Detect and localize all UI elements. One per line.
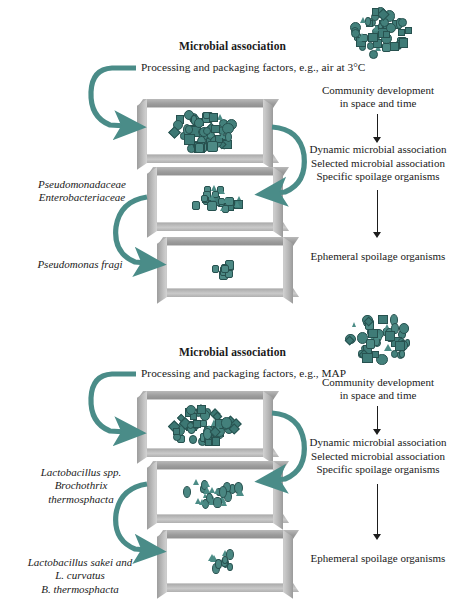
box-bottom-face: [137, 448, 279, 457]
box-right-face: [273, 461, 283, 530]
microorganism-ci: [398, 18, 407, 27]
microorganism-sq: [390, 42, 399, 51]
microorganism-ci: [185, 125, 194, 134]
box-inner-surface: [156, 175, 274, 223]
microorganism-ci: [399, 323, 410, 334]
box-right-face: [263, 99, 273, 170]
initial-association-box: [137, 99, 273, 163]
microorganism-rsq: [200, 420, 207, 427]
flow-arrow-stem: [377, 190, 378, 234]
box-bottom-face: [157, 583, 299, 592]
flow-arrow-head-icon: [373, 534, 381, 540]
taxa-label-group-1: Pseudomonadaceae Enterobacteriaceae: [22, 178, 142, 205]
taxa-line: Pseudomonadaceae: [22, 178, 142, 191]
microorganism-rsq: [366, 339, 375, 349]
initial-association-box: [137, 391, 273, 457]
microorganism-tr: [209, 487, 215, 493]
stage-specific-spoilage: Specific spoilage organisms: [298, 463, 458, 477]
box-right-face: [263, 391, 273, 464]
taxa-label-group-1: Lactobacillus spp. Brochothrix thermosph…: [18, 466, 144, 506]
box-bottom-face: [157, 288, 299, 297]
microorganism-rsq: [212, 265, 219, 273]
community-development-line1: Community development: [303, 84, 453, 98]
taxa-line: Lactobacillus spp.: [18, 466, 144, 479]
microorganism-tr: [193, 479, 199, 485]
box-right-face: [283, 530, 293, 599]
microorganism-ci: [194, 118, 204, 128]
microorganism-tr: [384, 344, 392, 351]
panel-aerobic: Microbial association Processing and pac…: [0, 0, 475, 306]
panel-map: Microbial association Processing and pac…: [0, 306, 475, 612]
microorganism-sq: [211, 125, 220, 134]
microorganism-rsq: [192, 201, 200, 210]
microorganism-tr: [220, 207, 224, 211]
flow-arrow-stem: [377, 406, 378, 431]
microorganism-ci: [221, 417, 232, 428]
microorganism-sq: [193, 420, 201, 428]
microorganism-tr: [373, 25, 379, 31]
microorganism-ci: [189, 435, 197, 443]
flow-arrow-head-icon: [373, 429, 381, 435]
microorganism-tr: [221, 500, 227, 506]
microorganism-tr: [234, 201, 240, 207]
microorganism-rsq: [195, 143, 204, 153]
stage-specific-spoilage: Specific spoilage organisms: [298, 170, 458, 184]
flow-arrow-stem: [377, 114, 378, 139]
microorganism-sq: [197, 405, 206, 414]
box-inner-surface: [146, 107, 264, 155]
microorganism-tr: [217, 114, 223, 120]
microorganism-sq: [209, 113, 218, 122]
microorganism-sq: [378, 315, 388, 325]
box-right-face: [283, 237, 293, 304]
selected-association-box: [147, 461, 283, 523]
flow-arrow-stem: [377, 484, 378, 536]
microorganism-sq: [398, 29, 405, 36]
microorganism-sq: [385, 331, 395, 341]
taxa-label-group-2: Lactobacillus sakei and L. curvatus B. t…: [12, 556, 148, 596]
microorganism-rsq: [221, 265, 229, 273]
inoculum-cluster: [343, 312, 415, 364]
microorganism-sq: [395, 341, 405, 351]
microorganism-sq: [362, 353, 372, 363]
microorganism-tr: [209, 194, 215, 200]
microorganism-tr: [223, 197, 229, 203]
microorganism-ci: [367, 42, 375, 50]
stage-dynamic-association: Dynamic microbial association: [298, 436, 458, 450]
taxa-line: Enterobacteriaceae: [22, 191, 142, 204]
microorganism-sq: [399, 38, 409, 48]
microorganism-ov: [365, 17, 371, 25]
community-development-line2: in space and time: [303, 389, 453, 403]
box-inner-surface: [166, 245, 284, 289]
microorganism-ov: [213, 497, 221, 509]
specific-spoilage-box: [157, 237, 293, 297]
stage-selected-association: Selected microbial association: [298, 157, 458, 171]
taxa-label-group-2: Pseudomonas fragi: [18, 258, 142, 271]
taxa-line: thermosphacta: [18, 493, 144, 506]
microorganism-sq: [405, 27, 412, 34]
microorganism-tr: [220, 133, 224, 138]
box-bottom-face: [137, 154, 279, 163]
microorganism-ov: [227, 563, 233, 571]
microorganism-tr: [352, 322, 356, 327]
specific-spoilage-box: [157, 530, 293, 592]
stage-dynamic-association: Dynamic microbial association: [298, 143, 458, 157]
stage-selected-association: Selected microbial association: [298, 450, 458, 464]
microorganism-ov: [183, 486, 191, 498]
taxa-line: Pseudomonas fragi: [18, 258, 142, 271]
microorganism-sq: [368, 329, 378, 339]
microorganism-tr: [360, 17, 366, 23]
microorganism-rsq: [207, 141, 217, 152]
microorganism-sq: [383, 31, 390, 38]
box-right-face: [273, 167, 283, 238]
figure-canvas: Microbial association Processing and pac…: [0, 0, 475, 612]
microorganism-sq: [212, 437, 220, 445]
flow-arrow-head-icon: [373, 232, 381, 238]
panel-title: Microbial association: [179, 40, 286, 52]
outcome-ephemeral-spoilage: Ephemeral spoilage organisms: [298, 552, 458, 566]
microorganism-rsq: [201, 195, 208, 202]
community-development-line2: in space and time: [303, 97, 453, 111]
community-development-line1: Community development: [303, 376, 453, 390]
taxa-line: Brochothrix: [18, 479, 144, 492]
selected-association-box: [147, 167, 283, 231]
box-inner-surface: [166, 538, 284, 584]
